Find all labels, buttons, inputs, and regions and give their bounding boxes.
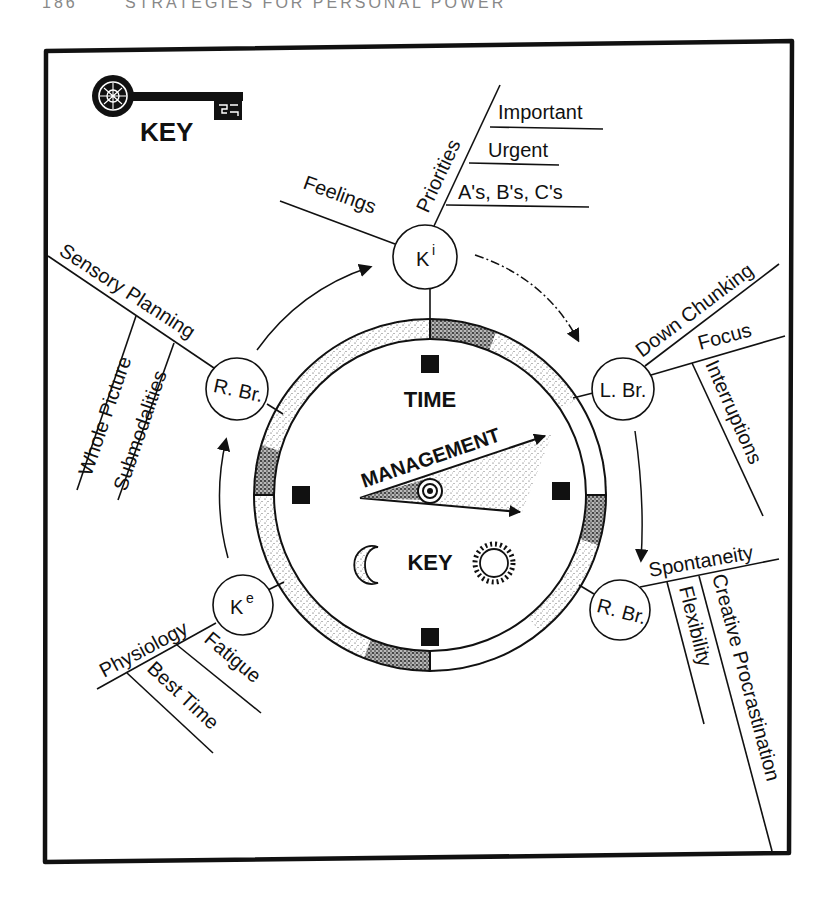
branch-focus: Focus bbox=[695, 319, 753, 354]
arrow-lbr-to-rbr bbox=[635, 431, 642, 560]
branch-feelings: Feelings bbox=[301, 171, 380, 218]
leaf-line-urgent bbox=[469, 163, 559, 165]
running-title: STRATEGIES FOR PERSONAL POWER bbox=[125, 0, 506, 11]
clock-label-time: TIME bbox=[404, 387, 457, 412]
skeleton-key-icon bbox=[92, 75, 243, 120]
node-r-br-left: R. Br. bbox=[206, 358, 283, 420]
clock-label-key: KEY bbox=[407, 550, 453, 575]
branch-priorities: Priorities bbox=[412, 136, 465, 216]
time-management-key-diagram: 186 STRATEGIES FOR PERSONAL POWER KEY bbox=[0, 0, 840, 906]
leaf-fatigue: Fatigue bbox=[200, 627, 265, 687]
svg-text:K: K bbox=[416, 248, 430, 270]
node-ke: K e bbox=[213, 575, 284, 635]
branch-line-feelings bbox=[280, 201, 395, 244]
leaf-abc: A's, B's, C's bbox=[458, 181, 563, 203]
leaf-line-important bbox=[490, 127, 603, 129]
key-logo-label: KEY bbox=[140, 117, 193, 147]
leaf-line-abc bbox=[446, 205, 589, 207]
branch-line-sensory-planning bbox=[48, 256, 214, 368]
branch-down-chunking: Down Chunking bbox=[631, 259, 757, 362]
node-r-br-right: R. Br. bbox=[579, 580, 650, 640]
branch-sensory-planning: Sensory Planning bbox=[56, 239, 199, 343]
arrow-ke-to-rbr bbox=[219, 440, 228, 558]
svg-text:i: i bbox=[432, 242, 435, 258]
leaf-interruptions: Interruptions bbox=[701, 357, 766, 468]
leaf-important: Important bbox=[498, 101, 583, 123]
svg-text:e: e bbox=[246, 590, 254, 606]
arrow-ki-to-lbr bbox=[475, 255, 578, 340]
node-ki: K i bbox=[393, 225, 457, 319]
leaf-urgent: Urgent bbox=[488, 139, 548, 161]
svg-text:K: K bbox=[230, 596, 244, 618]
leaf-best-time: Best Time bbox=[143, 657, 223, 734]
svg-text:L. Br.: L. Br. bbox=[600, 379, 647, 401]
page-number: 186 bbox=[42, 0, 78, 11]
leaf-flexibility: Flexibility bbox=[675, 584, 716, 669]
